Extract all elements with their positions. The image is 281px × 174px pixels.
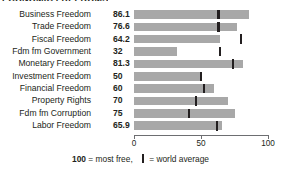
world-average-tick-icon — [195, 96, 197, 106]
category-label: Investment Freedom — [0, 71, 91, 82]
world-average-tick-icon — [232, 59, 234, 69]
category-label: Financial Freedom — [0, 83, 91, 94]
bar-track — [134, 10, 268, 19]
bar-track — [134, 72, 268, 81]
table-row: Monetary Freedom81.3 — [0, 58, 281, 70]
category-label: Fdm fm Government — [0, 46, 91, 57]
bar-fill — [134, 72, 201, 81]
axis-tick-label: 0 — [122, 139, 146, 149]
bar-fill — [134, 97, 228, 106]
world-average-tick-icon — [216, 121, 218, 131]
category-label: Fiscal Freedom — [0, 34, 91, 45]
world-average-tick-icon — [217, 22, 219, 32]
table-row: Labor Freedom65.9 — [0, 120, 281, 132]
footnote-average-text: = world average — [147, 154, 209, 164]
bar-fill — [134, 109, 235, 118]
table-row: Fdm fm Government32 — [0, 46, 281, 58]
category-label: Property Rights — [0, 95, 91, 106]
bar-track — [134, 84, 268, 93]
world-average-tick-icon — [200, 72, 202, 82]
category-value: 76.6 — [113, 21, 135, 32]
table-row: Property Rights70 — [0, 95, 281, 107]
category-value: 64.2 — [113, 34, 135, 45]
table-row: Investment Freedom50 — [0, 71, 281, 83]
world-average-tick-icon — [219, 47, 221, 57]
bar-track — [134, 47, 268, 56]
chart-title: ECONOMIC FREEDOMS — [2, 0, 108, 1]
bar-fill — [134, 60, 243, 69]
table-row: Financial Freedom60 — [0, 83, 281, 95]
category-label: Fdm fm Corruption — [0, 108, 91, 119]
category-label: Monetary Freedom — [0, 58, 91, 69]
category-label: Trade Freedom — [0, 21, 91, 32]
category-value: 75 — [113, 108, 135, 119]
category-value: 81.3 — [113, 58, 135, 69]
footnote-max-value: 100 — [72, 154, 86, 164]
chart-footnote: 100 = most free, = world average — [0, 154, 281, 165]
bar-track — [134, 35, 268, 44]
bar-track — [134, 97, 268, 106]
axis-tick-label: 50 — [189, 139, 213, 149]
economic-freedoms-chart: ECONOMIC FREEDOMS Business Freedom86.1Tr… — [0, 0, 281, 174]
category-value: 32 — [113, 46, 135, 57]
category-value: 65.9 — [113, 120, 135, 131]
bar-track — [134, 60, 268, 69]
bar-track — [134, 121, 268, 130]
world-average-tick-icon — [142, 154, 144, 163]
category-label: Business Freedom — [0, 9, 91, 20]
table-row: Fiscal Freedom64.2 — [0, 34, 281, 46]
bar-track — [134, 23, 268, 32]
world-average-tick-icon — [217, 10, 219, 20]
bar-fill — [134, 121, 222, 130]
table-row: Fdm fm Corruption75 — [0, 108, 281, 120]
category-label: Labor Freedom — [0, 120, 91, 131]
category-value: 86.1 — [113, 9, 135, 20]
table-row: Business Freedom86.1 — [0, 9, 281, 21]
category-value: 70 — [113, 95, 135, 106]
bar-track — [134, 109, 268, 118]
world-average-tick-icon — [188, 109, 190, 119]
footnote-most-free-text: = most free, — [86, 154, 133, 164]
bar-fill — [134, 23, 237, 32]
bar-fill — [134, 47, 177, 56]
world-average-tick-icon — [203, 84, 205, 94]
world-average-tick-icon — [240, 34, 242, 44]
category-value: 50 — [113, 71, 135, 82]
table-row: Trade Freedom76.6 — [0, 21, 281, 33]
bar-fill — [134, 10, 249, 19]
bar-fill — [134, 35, 220, 44]
category-value: 60 — [113, 83, 135, 94]
axis-tick-label: 100 — [256, 139, 280, 149]
